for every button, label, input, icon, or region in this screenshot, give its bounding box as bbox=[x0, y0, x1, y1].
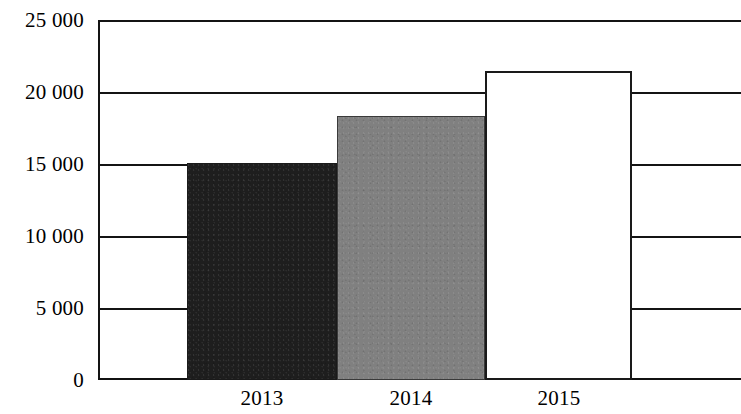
y-tick-label-15000: 15 000 bbox=[25, 154, 84, 175]
y-tick-label-0: 0 bbox=[73, 370, 84, 391]
x-tick-label-2014: 2014 bbox=[389, 386, 432, 410]
x-tick-label-2015: 2015 bbox=[537, 386, 580, 410]
bar-2015[interactable] bbox=[485, 71, 632, 380]
y-tick-label-20000: 20 000 bbox=[25, 82, 84, 103]
y-tick-label-10000: 10 000 bbox=[25, 226, 84, 247]
x-tick-label-2013: 2013 bbox=[240, 386, 283, 410]
plot-area bbox=[98, 20, 741, 380]
x-axis-label-group: 2013 2014 2015 bbox=[98, 384, 741, 414]
bar-2013[interactable] bbox=[187, 163, 337, 380]
bar-2014[interactable] bbox=[337, 116, 485, 380]
y-tick-label-25000: 25 000 bbox=[25, 10, 84, 31]
y-tick-label-5000: 5 000 bbox=[36, 298, 84, 319]
bar-chart: 25 000 20 000 15 000 10 000 5 000 0 2013… bbox=[0, 0, 741, 414]
y-axis-label-group: 25 000 20 000 15 000 10 000 5 000 0 bbox=[0, 0, 92, 414]
bar-group bbox=[98, 20, 741, 380]
